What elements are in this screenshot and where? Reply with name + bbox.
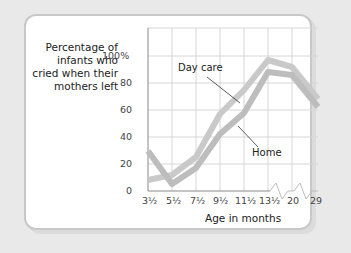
chart-plot — [0, 0, 351, 253]
x-axis-label: Age in months — [205, 212, 281, 224]
x-tick: 7½ — [190, 195, 205, 206]
x-tick: 9½ — [213, 195, 228, 206]
x-tick: 13½ — [259, 195, 280, 206]
x-tick: 29 — [310, 195, 322, 206]
x-tick: 5½ — [166, 195, 181, 206]
x-tick: 11½ — [235, 195, 256, 206]
legend-home: Home — [252, 147, 282, 158]
x-tick: 3½ — [142, 195, 157, 206]
legend-daycare: Day care — [178, 62, 223, 73]
x-tick: 20 — [287, 195, 299, 206]
